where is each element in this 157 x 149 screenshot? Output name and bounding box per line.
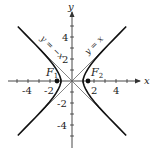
x-tick-label: 2 [91,85,97,96]
focus-f2-label: F2 [90,66,103,80]
x-tick-label: -2 [44,85,54,96]
hyperbola-diagram: F1 F2 x y -4 -2 2 4 4 2 -2 -4 y = −x y =… [0,0,157,149]
focus-f2-point [86,79,91,84]
x-tick-label: 4 [113,85,119,96]
x-axis-arrow-icon [135,79,141,84]
y-axis-label: y [67,1,74,12]
x-axis-label: x [144,75,150,86]
asymptote-label-pos: y = x [82,34,106,58]
x-tick-label: -4 [22,85,32,96]
y-tick-label: -4 [57,120,67,131]
y-tick-label: -2 [57,98,67,109]
y-tick-label: 4 [62,32,68,43]
x-axis [8,79,141,84]
